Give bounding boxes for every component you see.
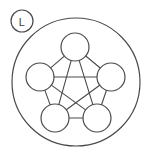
graph-nodes-layer (26, 33, 125, 132)
graph-edge (51, 56, 65, 68)
graph-node[interactable] (41, 104, 69, 132)
graph-node[interactable] (97, 63, 125, 91)
level-badge[interactable]: L (11, 10, 33, 32)
graph-edge (86, 56, 100, 68)
graph-node[interactable] (61, 33, 89, 61)
graph-edge (79, 60, 93, 104)
graph-node[interactable] (26, 63, 54, 91)
network-graph-icon[interactable]: L (0, 0, 146, 157)
graph-node[interactable] (83, 104, 111, 132)
graph-edge (45, 90, 50, 105)
icon-svg-root: L (0, 0, 146, 157)
graph-edge (102, 90, 107, 105)
level-badge-label: L (19, 16, 25, 28)
